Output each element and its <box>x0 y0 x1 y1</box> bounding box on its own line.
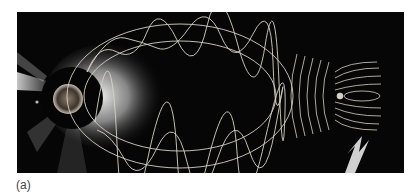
direction-arrow <box>345 136 369 173</box>
earth-magnetosphere-field-lines <box>291 54 381 138</box>
panel-label: (a) <box>16 178 31 192</box>
cme-diagram <box>17 12 404 173</box>
